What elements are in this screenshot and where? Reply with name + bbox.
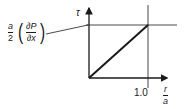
deriv-numerator: ∂P [26, 22, 36, 31]
x-axis-label: r a [163, 85, 168, 106]
y-axis-label: τ [76, 8, 80, 18]
x-label-numerator: r [164, 85, 167, 94]
x-tick-label: 1.0 [134, 88, 148, 98]
coef-denominator: 2 [8, 34, 13, 43]
derivative-fraction: ∂P ∂x [26, 22, 36, 43]
coefficient-fraction: a 2 [8, 22, 13, 43]
annotation-leader [46, 25, 88, 34]
x-label-denominator: a [163, 97, 168, 106]
coef-numerator: a [8, 22, 13, 31]
shear-stress-line [89, 25, 148, 78]
diagram-canvas [0, 0, 185, 109]
deriv-denominator: ∂x [27, 34, 36, 43]
close-paren: ) [40, 21, 45, 43]
open-paren: ( [18, 21, 23, 43]
